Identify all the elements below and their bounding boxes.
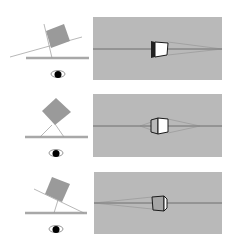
box-plan	[45, 177, 70, 202]
sight-line	[55, 124, 64, 137]
box-side-face	[151, 41, 155, 58]
box-plan	[46, 24, 70, 48]
plan-view-2	[25, 98, 88, 157]
box-right-face	[158, 118, 168, 134]
box-front-face	[152, 196, 164, 211]
plan-view-1	[10, 24, 89, 78]
perspective-view-1	[93, 17, 222, 80]
eye-icon	[49, 150, 63, 158]
sight-line	[40, 125, 52, 137]
box-plan	[42, 98, 71, 125]
eye-icon	[51, 71, 65, 79]
diagram-canvas	[0, 0, 236, 251]
sight-line	[54, 200, 58, 213]
row-1	[10, 17, 222, 80]
plan-view-3	[25, 177, 87, 233]
perspective-view-3	[94, 172, 222, 234]
box-front-face	[155, 42, 168, 57]
box-left-face	[151, 118, 158, 134]
perspective-view-2	[93, 94, 222, 157]
row-2	[25, 94, 222, 157]
box-side-face	[164, 196, 167, 211]
row-3	[25, 172, 222, 234]
eye-icon	[49, 226, 63, 234]
sight-line	[10, 37, 82, 57]
